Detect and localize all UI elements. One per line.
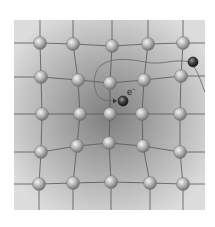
- polaron-diagram: e−: [0, 0, 215, 227]
- lattice-ion: [174, 146, 187, 159]
- lattice-ion: [67, 177, 80, 190]
- lattice-ion: [105, 176, 118, 189]
- lattice-ion: [142, 38, 155, 51]
- lattice-ion: [136, 108, 149, 121]
- lattice-ion: [33, 178, 46, 191]
- lattice-ion: [35, 71, 48, 84]
- electron-charge: −: [132, 86, 136, 92]
- lattice-ion: [137, 140, 150, 153]
- trapped-electron: [118, 96, 128, 106]
- lattice-ion: [174, 108, 187, 121]
- lattice-ion: [106, 40, 119, 53]
- lattice-ion: [104, 108, 117, 121]
- lattice-ion: [35, 146, 48, 159]
- lattice-ion: [67, 38, 80, 51]
- lattice-ion: [34, 37, 47, 50]
- incoming-electron: [188, 57, 198, 67]
- lattice-ion: [104, 77, 117, 90]
- lattice-ion: [103, 137, 116, 150]
- lattice-ion: [72, 74, 85, 87]
- lattice-ion: [144, 177, 157, 190]
- lattice-ion: [138, 74, 151, 87]
- lattice-ion: [177, 178, 190, 191]
- lattice-ion: [36, 108, 49, 121]
- lattice-ion: [177, 37, 190, 50]
- lattice-ion: [74, 108, 87, 121]
- lattice-ion: [175, 70, 188, 83]
- lattice-ion: [71, 140, 84, 153]
